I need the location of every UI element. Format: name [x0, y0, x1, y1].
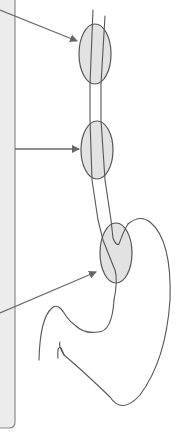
- stomach-lesser-curvature: [39, 300, 114, 360]
- middle-esophagus-zone: [81, 121, 113, 179]
- upper-esophagus-zone: [79, 24, 111, 84]
- left-panel: [0, 0, 15, 428]
- esophagus-stomach-diagram: [0, 0, 190, 432]
- duodenum-curve: [58, 347, 64, 358]
